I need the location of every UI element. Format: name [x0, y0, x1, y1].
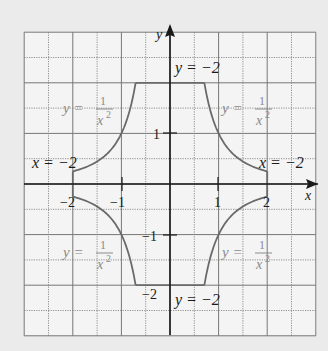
right-boundary-label: x = −2 — [258, 154, 304, 171]
x-tick-label-m2: −2 — [60, 195, 75, 210]
eq-den: x — [255, 113, 263, 128]
eq-exp: 2 — [265, 253, 270, 264]
eq-lhs: y = — [220, 100, 243, 116]
eq-num: 1 — [100, 94, 106, 108]
x-tick-label-2: 2 — [263, 195, 270, 210]
left-boundary-label: x = −2 — [31, 154, 77, 171]
eq-den: x — [255, 257, 263, 272]
y-tick-label-m1: −1 — [142, 229, 157, 244]
bottom-boundary-text: y = −2 — [173, 291, 220, 309]
eq-den: x — [96, 257, 104, 272]
right-boundary-text: x = −2 — [258, 154, 304, 171]
eq-num: 1 — [259, 238, 265, 252]
eq-exp: 2 — [106, 253, 111, 264]
chart-canvas: y x −2 −1 1 2 1 −1 −2 y = −2 y = −2 x = … — [0, 0, 328, 351]
x-tick-label-1: 1 — [214, 195, 221, 210]
y-tick-label-m2: −2 — [142, 287, 157, 302]
x-axis-label: x — [304, 188, 312, 203]
top-boundary-text: y = −2 — [173, 59, 220, 77]
eq-lhs: y = — [61, 100, 84, 116]
eq-den: x — [96, 113, 104, 128]
eq-num: 1 — [100, 238, 106, 252]
top-boundary-label: y = −2 — [173, 59, 220, 77]
x-tick-label-m1: −1 — [110, 195, 125, 210]
y-tick-label-1: 1 — [153, 127, 160, 142]
eq-lhs: y = — [220, 244, 243, 260]
eq-exp: 2 — [265, 109, 270, 120]
y-axis-label: y — [154, 27, 163, 42]
bottom-boundary-label: y = −2 — [173, 291, 220, 309]
eq-num: 1 — [259, 94, 265, 108]
eq-lhs: y = — [61, 244, 84, 260]
eq-exp: 2 — [106, 109, 111, 120]
left-boundary-text: x = −2 — [31, 154, 77, 171]
